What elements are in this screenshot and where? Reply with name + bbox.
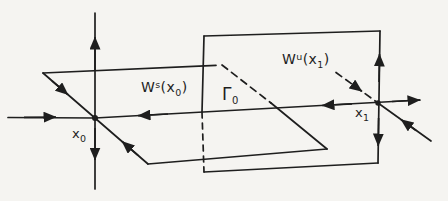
wu-rectangle-left-edge-hidden (202, 112, 204, 172)
label-part-sub: 1 (363, 112, 369, 123)
x0-point (92, 115, 98, 121)
arrow-into-x1-lower-diagonal-icon (401, 120, 416, 131)
arrow-into-x1-upper-diagonal-icon (356, 87, 362, 91)
arrow-into-x0-lower-diagonal-icon (122, 141, 138, 155)
wu-rectangle-left-edge-front (202, 36, 204, 112)
wu-rectangle-bottom-edge (204, 163, 378, 172)
label-part-arg: (x (161, 79, 176, 95)
ws-parallelogram-bottom-edge (148, 149, 327, 164)
label-part-close: ) (324, 51, 330, 67)
label-gamma-orbit: Γ0 (222, 85, 239, 106)
label-unstable-manifold: Wu(x1) (282, 52, 330, 68)
arrow-left-toward-x0-icon (138, 114, 168, 116)
label-part-base: x (355, 105, 363, 120)
ws-parallelogram-right-edge-front (271, 103, 327, 149)
label-part-sup: s (155, 79, 160, 90)
label-part-sub: 0 (80, 133, 86, 144)
x1-point (375, 100, 380, 105)
arrow-left-toward-x0-right-icon (322, 104, 352, 106)
label-x1: x1 (355, 105, 370, 121)
label-part-close: ) (182, 79, 188, 95)
label-part-sub: 0 (232, 95, 239, 106)
label-part-sub: 1 (317, 59, 323, 70)
label-x0: x0 (72, 126, 87, 142)
arrow-into-x0-upper-diagonal-icon (52, 81, 68, 95)
label-stable-manifold: Ws(x0) (141, 80, 188, 96)
heteroclinic-manifold-diagram: Ws(x0) Wu(x1) Γ0 x0 x1 (0, 0, 448, 201)
label-part-base: W (282, 51, 296, 67)
wu-rectangle-top-edge (204, 31, 380, 36)
arrow-right-out-of-x1-icon (392, 100, 420, 102)
label-part-arg: (x (303, 51, 318, 67)
label-part-base: x (72, 126, 80, 141)
arrow-up-x1-icon (379, 54, 380, 82)
label-part-sub: 0 (175, 87, 181, 98)
ws-parallelogram-top-edge (43, 65, 216, 73)
label-part-base: Γ (222, 84, 232, 104)
label-part-sup: u (296, 51, 302, 62)
label-part-base: W (141, 79, 155, 95)
